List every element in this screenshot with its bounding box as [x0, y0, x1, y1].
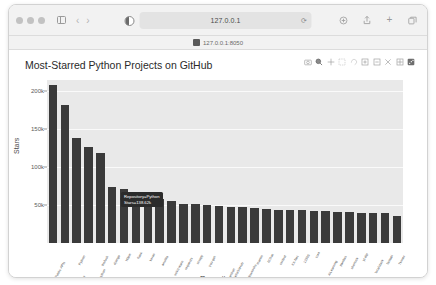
bar[interactable] [191, 204, 200, 243]
bar-slot [130, 80, 142, 243]
bar-slot [201, 80, 213, 243]
x-tick-slot: ItChat [260, 243, 272, 273]
plotly-logo-icon[interactable] [407, 58, 415, 66]
x-tick-slot: core [308, 243, 320, 273]
zoom-in-icon[interactable] [361, 58, 369, 66]
bar[interactable] [393, 216, 402, 243]
x-tick-slot: 12306 [296, 243, 308, 273]
x-tick-slot: scrapy [189, 243, 201, 273]
x-tick-slot: localstack [367, 243, 379, 273]
bar[interactable] [345, 212, 354, 243]
bar-slot [71, 80, 83, 243]
x-tick-slot: yt-dlp [355, 243, 367, 273]
bar-slot [320, 80, 332, 243]
plotly-modebar [304, 58, 416, 66]
reset-axes-icon[interactable] [396, 58, 404, 66]
bar-slot [225, 80, 237, 243]
bar-slot [166, 80, 178, 243]
new-tab-icon[interactable]: + [382, 13, 397, 28]
y-tick-label: 150k [31, 126, 44, 132]
zoom-icon[interactable] [315, 58, 323, 66]
reload-icon[interactable]: ⟳ [301, 17, 307, 25]
bar[interactable] [298, 210, 307, 243]
tab-title[interactable]: 127.0.0.1:8050 [203, 40, 243, 46]
bar-slot [142, 80, 154, 243]
page-content: Most-Starred Python Projects on GitHub [9, 50, 427, 278]
forward-icon[interactable]: › [86, 15, 89, 26]
bar[interactable] [369, 213, 378, 243]
lasso-select-icon[interactable] [350, 58, 358, 66]
bar[interactable] [227, 207, 236, 243]
bar-slot [391, 80, 403, 243]
bar[interactable] [49, 85, 58, 243]
y-tick-label: 50k [34, 202, 44, 208]
bar[interactable] [203, 205, 212, 243]
toolbar-right-group: + [336, 13, 420, 28]
bar-slot [83, 80, 95, 243]
autoscale-icon[interactable] [384, 58, 392, 66]
bar[interactable] [333, 212, 342, 243]
x-tick-slot: awesome-python [83, 243, 95, 273]
bar[interactable] [179, 204, 188, 243]
share-icon[interactable] [359, 13, 374, 28]
address-bar-group: 127.0.0.1 ⟳ [125, 12, 312, 29]
extensions-icon[interactable] [336, 13, 351, 28]
bar[interactable] [310, 211, 319, 243]
x-tick-slot: requests [177, 243, 189, 273]
bar[interactable] [215, 206, 224, 243]
y-tick-label: 200k [31, 88, 44, 94]
bar-slot [106, 80, 118, 243]
y-axis-title: Stars [13, 138, 20, 154]
x-tick-slot: sherlock [343, 243, 355, 273]
bar[interactable] [238, 207, 247, 243]
tab-strip: 127.0.0.1:8050 [9, 36, 427, 50]
bar[interactable] [84, 147, 93, 243]
back-icon[interactable]: ‹ [76, 15, 79, 26]
x-tick-slot: manim [249, 243, 261, 273]
x-tick-slot: you-get [201, 243, 213, 273]
pan-icon[interactable] [327, 58, 335, 66]
address-bar[interactable]: 127.0.0.1 ⟳ [140, 12, 312, 29]
camera-icon[interactable] [304, 58, 312, 66]
box-select-icon[interactable] [338, 58, 346, 66]
bar[interactable] [381, 213, 390, 243]
minimize-button[interactable] [27, 17, 34, 24]
close-button[interactable] [16, 17, 23, 24]
reader-mode-icon[interactable] [125, 16, 135, 26]
tooltip-value: Stars=138.62k [124, 200, 160, 206]
bar[interactable] [167, 201, 176, 243]
bar-slot [308, 80, 320, 243]
bar[interactable] [61, 105, 70, 243]
bar[interactable] [262, 209, 271, 243]
show-tabs-icon[interactable] [405, 13, 420, 28]
bar-slot [296, 80, 308, 243]
bar-series [47, 80, 403, 243]
x-axis-title: Repository [9, 274, 427, 278]
bar[interactable] [250, 208, 259, 243]
bar-slot [367, 80, 379, 243]
x-tick-slot: ansible [154, 243, 166, 273]
bar[interactable] [96, 153, 105, 243]
x-tick-slot: certbot [272, 243, 284, 273]
bar-slot [249, 80, 261, 243]
y-tick-label: 100k [31, 164, 44, 170]
zoom-out-icon[interactable] [373, 58, 381, 66]
address-text: 127.0.0.1 [210, 17, 240, 24]
bar-slot [47, 80, 59, 243]
bar[interactable] [357, 213, 366, 243]
zoom-button[interactable] [38, 17, 45, 24]
x-tick-slot: HelloGitHub [225, 243, 237, 273]
bar[interactable] [286, 210, 295, 243]
sidebar-toggle-icon[interactable] [54, 13, 69, 28]
chart-title: Most-Starred Python Projects on GitHub [25, 59, 212, 71]
bar[interactable] [72, 138, 81, 243]
x-tick-slot: AiLearning [320, 243, 332, 273]
window-controls [16, 17, 45, 24]
favicon-icon [193, 39, 200, 46]
hover-tooltip: Repository=Python Stars=138.62k [121, 192, 163, 207]
browser-window: ‹ › 127.0.0.1 ⟳ + [8, 4, 428, 278]
bar-slot [213, 80, 225, 243]
bar[interactable] [321, 211, 330, 243]
bar[interactable] [108, 187, 117, 243]
bar[interactable] [274, 210, 283, 243]
